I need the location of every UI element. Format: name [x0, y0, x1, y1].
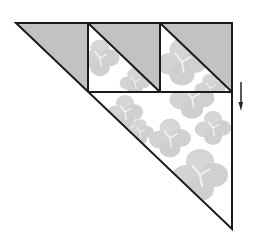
large-floral-triangle: [88, 77, 232, 229]
press-direction-arrow-icon: [239, 82, 244, 111]
half-square-triangle-2: [157, 23, 232, 102]
half-square-triangle-1: [80, 23, 160, 96]
quilt-diagram: [0, 0, 253, 243]
